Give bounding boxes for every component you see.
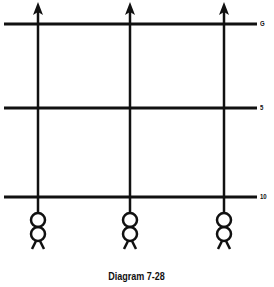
player-icon — [123, 213, 137, 227]
play-diagram — [0, 0, 274, 287]
yard-label-10: 10 — [260, 192, 267, 201]
diagram-caption: Diagram 7-28 — [0, 270, 274, 282]
player-right — [217, 213, 231, 249]
player-middle — [123, 213, 137, 249]
caption-text: Diagram 7-28 — [109, 270, 166, 282]
yard-label-goal: G — [260, 19, 265, 28]
player-icon — [217, 213, 231, 227]
player-left — [31, 213, 45, 249]
player-icon — [31, 213, 45, 227]
yard-label-5: 5 — [260, 103, 263, 112]
